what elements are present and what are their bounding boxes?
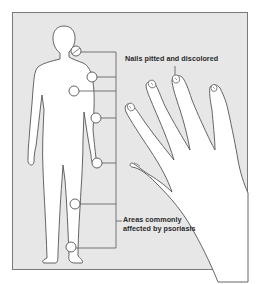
marker-knee: [70, 199, 80, 209]
marker-elbow: [91, 113, 101, 123]
nails-label: Nails pitted and discolored: [125, 55, 218, 64]
hand-figure: [125, 66, 248, 282]
marker-wrist: [92, 158, 102, 168]
areas-label-line2: affected by psoriasis: [123, 225, 196, 234]
marker-shoulder: [87, 72, 97, 82]
marker-ankle: [66, 242, 76, 252]
areas-label: Areas commonly affected by psoriasis: [123, 216, 196, 233]
marker-chest: [69, 86, 79, 96]
body-figure: [28, 26, 100, 263]
psoriasis-diagram: [0, 0, 258, 284]
